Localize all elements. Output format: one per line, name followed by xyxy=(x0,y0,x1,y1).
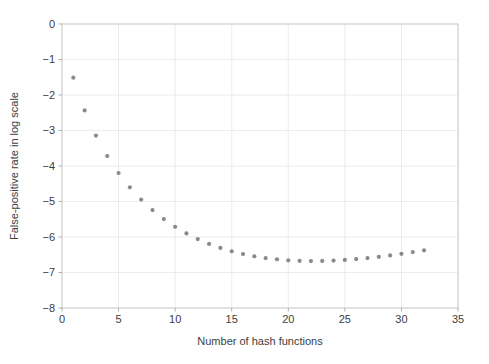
data-point xyxy=(230,249,234,253)
x-tick-label: 25 xyxy=(339,313,351,325)
x-tick-label: 10 xyxy=(169,313,181,325)
data-point xyxy=(354,257,358,261)
data-point xyxy=(422,248,426,252)
data-point xyxy=(252,254,256,258)
ticks-layer: 051015202530350−1−2−3−4−5−6−7−8 xyxy=(42,18,464,325)
data-point xyxy=(309,259,313,263)
data-point xyxy=(162,217,166,221)
data-point xyxy=(218,246,222,250)
y-tick-label: 0 xyxy=(49,18,55,30)
y-tick-label: −2 xyxy=(42,89,55,101)
data-point xyxy=(139,198,143,202)
data-point xyxy=(298,259,302,263)
data-point xyxy=(377,255,381,259)
data-point xyxy=(116,171,120,175)
data-point xyxy=(150,208,154,212)
data-point xyxy=(196,237,200,241)
y-tick-label: −3 xyxy=(42,124,55,136)
data-point xyxy=(207,242,211,246)
data-point xyxy=(331,258,335,262)
data-point xyxy=(184,231,188,235)
data-point xyxy=(241,252,245,256)
x-axis-label: Number of hash functions xyxy=(197,335,323,347)
data-point xyxy=(128,185,132,189)
y-tick-label: −6 xyxy=(42,231,55,243)
data-point xyxy=(286,258,290,262)
x-tick-label: 30 xyxy=(395,313,407,325)
y-tick-label: −7 xyxy=(42,266,55,278)
data-point xyxy=(264,256,268,260)
y-tick-label: −5 xyxy=(42,195,55,207)
data-points-layer xyxy=(71,76,426,264)
data-point xyxy=(83,108,87,112)
y-axis-label: False-positive rate in log scale xyxy=(8,92,20,240)
bloom-filter-false-positive-figure: 051015202530350−1−2−3−4−5−6−7−8 Number o… xyxy=(0,0,489,364)
scatter-plot: 051015202530350−1−2−3−4−5−6−7−8 Number o… xyxy=(0,0,489,364)
data-point xyxy=(275,257,279,261)
x-tick-label: 20 xyxy=(282,313,294,325)
data-point xyxy=(320,259,324,263)
x-tick-label: 0 xyxy=(59,313,65,325)
y-tick-label: −4 xyxy=(42,160,55,172)
data-point xyxy=(105,154,109,158)
data-point xyxy=(173,225,177,229)
data-point xyxy=(71,76,75,80)
data-point xyxy=(388,253,392,257)
y-tick-label: −1 xyxy=(42,53,55,65)
data-point xyxy=(411,250,415,254)
data-point xyxy=(94,133,98,137)
x-tick-label: 5 xyxy=(116,313,122,325)
data-point xyxy=(343,258,347,262)
y-tick-label: −8 xyxy=(42,302,55,314)
grid-layer xyxy=(62,24,458,308)
x-tick-label: 15 xyxy=(226,313,238,325)
data-point xyxy=(399,252,403,256)
data-point xyxy=(365,256,369,260)
x-tick-label: 35 xyxy=(452,313,464,325)
